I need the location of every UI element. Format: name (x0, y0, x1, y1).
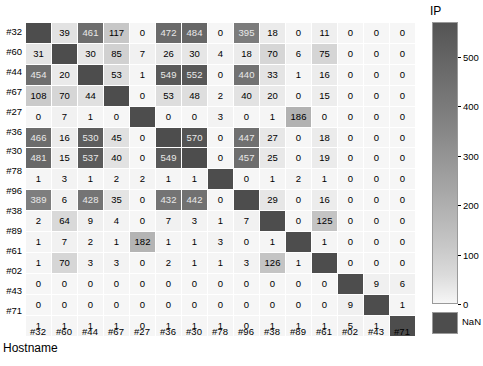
heatmap-cell: 0 (208, 294, 234, 315)
y-tick-label: #44 (0, 62, 22, 82)
x-tick-label: #60 (51, 326, 77, 337)
heatmap-cell: 126 (260, 252, 286, 273)
heatmap-cell: 0 (234, 232, 260, 253)
heatmap-cell: 16 (312, 190, 338, 211)
heatmap-cell: 1 (286, 64, 312, 85)
heatmap-cell: 4 (208, 43, 234, 64)
heatmap-cell: 0 (286, 85, 312, 106)
colorbar-title: IP (430, 4, 441, 18)
heatmap-cell: 0 (338, 252, 364, 273)
heatmap-cell: 0 (364, 43, 390, 64)
heatmap-cell: 2 (26, 211, 52, 232)
heatmap-cell: 30 (78, 43, 104, 64)
x-tick-label: #89 (285, 326, 311, 337)
heatmap-cell: 0 (286, 190, 312, 211)
heatmap-cell: 18 (234, 43, 260, 64)
colorbar-tick-mark (458, 205, 461, 206)
heatmap-cell: 33 (260, 64, 286, 85)
heatmap-cell: 3 (182, 211, 208, 232)
heatmap-cell (364, 294, 390, 315)
heatmap-cell: 9 (338, 294, 364, 315)
heatmap-cell: 0 (338, 43, 364, 64)
x-tick-label: #71 (389, 326, 415, 337)
colorbar-tick-labels: 0100200300400500 (458, 22, 483, 304)
heatmap-cell: 0 (338, 127, 364, 148)
heatmap-cell: 85 (104, 43, 130, 64)
heatmap-cell: 1 (260, 106, 286, 127)
heatmap-cell: 2 (130, 169, 156, 190)
heatmap-cell: 0 (286, 273, 312, 294)
heatmap-cell: 53 (156, 85, 182, 106)
heatmap-cell: 0 (286, 23, 312, 44)
heatmap-cell: 0 (390, 106, 416, 127)
heatmap-cell (260, 211, 286, 232)
y-tick-label: #36 (0, 122, 22, 142)
heatmap-cell: 117 (104, 23, 130, 44)
heatmap-cell: 15 (52, 148, 78, 169)
x-tick-label: #67 (103, 326, 129, 337)
heatmap-cell: 530 (78, 127, 104, 148)
heatmap-cell: 0 (26, 294, 52, 315)
y-tick-label: #60 (0, 42, 22, 62)
heatmap-cell: 1 (78, 169, 104, 190)
colorbar-tick-mark (458, 156, 461, 157)
heatmap-cell: 1 (182, 232, 208, 253)
heatmap-cell: 2 (104, 169, 130, 190)
heatmap-cell: 2 (78, 232, 104, 253)
heatmap-cell: 0 (338, 106, 364, 127)
heatmap-cell: 125 (312, 211, 338, 232)
heatmap-cell: 0 (312, 294, 338, 315)
heatmap-cell: 0 (390, 252, 416, 273)
x-tick-label: #02 (337, 326, 363, 337)
heatmap-cell: 1 (26, 232, 52, 253)
heatmap-cell: 3 (208, 106, 234, 127)
heatmap-cell: 472 (156, 23, 182, 44)
heatmap-cell: 0 (208, 127, 234, 148)
heatmap-cell: 1 (260, 169, 286, 190)
heatmap-cell: 0 (208, 148, 234, 169)
heatmap-row: 3896428350432442029016000 (26, 190, 416, 211)
heatmap-cell: 16 (52, 127, 78, 148)
heatmap-cell: 0 (312, 106, 338, 127)
heatmap-cell: 0 (338, 148, 364, 169)
heatmap-cell: 0 (130, 211, 156, 232)
heatmap-cell: 0 (338, 190, 364, 211)
heatmap-cell: 2 (208, 85, 234, 106)
heatmap-cell: 0 (156, 294, 182, 315)
heatmap-cell: 440 (234, 64, 260, 85)
heatmap-cell: 0 (390, 23, 416, 44)
heatmap-cell: 7 (130, 43, 156, 64)
heatmap-cell: 27 (260, 127, 286, 148)
heatmap-cell: 0 (286, 148, 312, 169)
heatmap-cell: 0 (208, 190, 234, 211)
heatmap-cell: 0 (390, 190, 416, 211)
heatmap-cell: 0 (390, 127, 416, 148)
heatmap-cell: 20 (260, 85, 286, 106)
heatmap-cell: 0 (364, 169, 390, 190)
heatmap-cell: 0 (130, 294, 156, 315)
heatmap-cell: 0 (364, 190, 390, 211)
y-tick-label: #71 (0, 301, 22, 321)
heatmap-cell: 0 (390, 148, 416, 169)
heatmap-cell: 11 (312, 23, 338, 44)
heatmap-cell: 447 (234, 127, 260, 148)
heatmap-cell: 0 (390, 211, 416, 232)
heatmap-cell: 0 (234, 106, 260, 127)
heatmap-cell: 0 (182, 294, 208, 315)
heatmap-cell: 0 (364, 64, 390, 85)
heatmap-row: 46616530450570044727018000 (26, 127, 416, 148)
heatmap-cell (156, 127, 182, 148)
heatmap-cell: 19 (312, 148, 338, 169)
heatmap-cell: 2 (156, 252, 182, 273)
heatmap-row: 1721182113011000 (26, 232, 416, 253)
heatmap-cell: 442 (182, 190, 208, 211)
heatmap-cell: 18 (312, 127, 338, 148)
heatmap-cell: 1 (182, 169, 208, 190)
heatmap-cell: 0 (234, 169, 260, 190)
heatmap-cell: 0 (130, 23, 156, 44)
colorbar-gradient (432, 22, 458, 304)
heatmap-row: 3130857263041870675000 (26, 43, 416, 64)
heatmap-cell: 29 (260, 190, 286, 211)
heatmap-cell: 1 (208, 211, 234, 232)
heatmap-cell: 1 (130, 64, 156, 85)
